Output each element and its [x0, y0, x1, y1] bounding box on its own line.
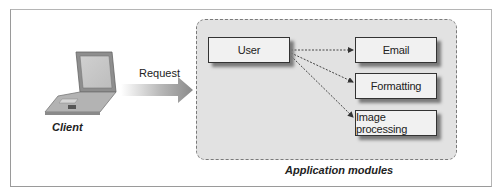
edge-user-formatting — [291, 53, 353, 82]
application-modules-label: Application modules — [285, 164, 393, 176]
request-label: Request — [139, 67, 180, 79]
module-user: User — [208, 37, 290, 63]
client-label: Client — [52, 121, 83, 133]
module-formatting-label: Formatting — [371, 80, 422, 92]
module-image-processing: Image processing — [355, 110, 437, 136]
edge-user-image-processing — [291, 56, 353, 117]
module-image-processing-label: Image processing — [356, 111, 436, 135]
module-user-label: User — [238, 44, 260, 56]
module-formatting: Formatting — [355, 73, 437, 99]
module-email-label: Email — [383, 44, 410, 56]
module-email: Email — [355, 37, 437, 63]
